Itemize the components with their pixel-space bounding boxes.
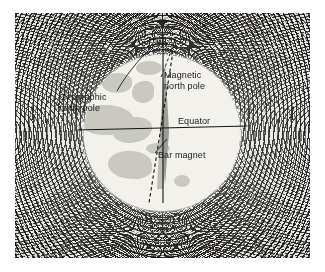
geographic-pole-leader: [117, 40, 161, 91]
diagram-overlay: [15, 13, 310, 258]
label-bar-magnet: Bar magnet: [158, 150, 206, 161]
label-magnetic-north-pole: Magnetic north pole: [164, 70, 205, 91]
photograph-plate: Geographic north pole Magnetic north pol…: [15, 13, 310, 258]
magnetic-field-figure: Geographic north pole Magnetic north pol…: [0, 0, 325, 272]
label-geographic-north-pole: Geographic north pole: [59, 92, 107, 113]
label-equator: Equator: [178, 116, 210, 127]
